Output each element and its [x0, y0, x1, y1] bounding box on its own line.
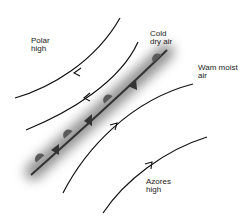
azores-high-line2: high [146, 186, 171, 194]
warm-moist-air-line2: air [198, 72, 238, 80]
arrow-southwest-icon [74, 68, 81, 76]
warm-moist-air-label: Wam moist air [198, 64, 238, 80]
front-line [31, 50, 167, 175]
cold-dry-air-label: Cold dry air [150, 30, 172, 46]
polar-high-label: Polar high [31, 37, 50, 53]
arrow-northeast-icon [110, 123, 117, 130]
tropical-streamline-outer [103, 137, 207, 213]
cold-dry-air-line2: dry air [150, 38, 172, 46]
front-diagram [0, 0, 251, 223]
polar-high-line2: high [31, 45, 50, 53]
azores-high-label: Azores high [146, 178, 171, 194]
polar-streamline-outer [15, 18, 120, 98]
